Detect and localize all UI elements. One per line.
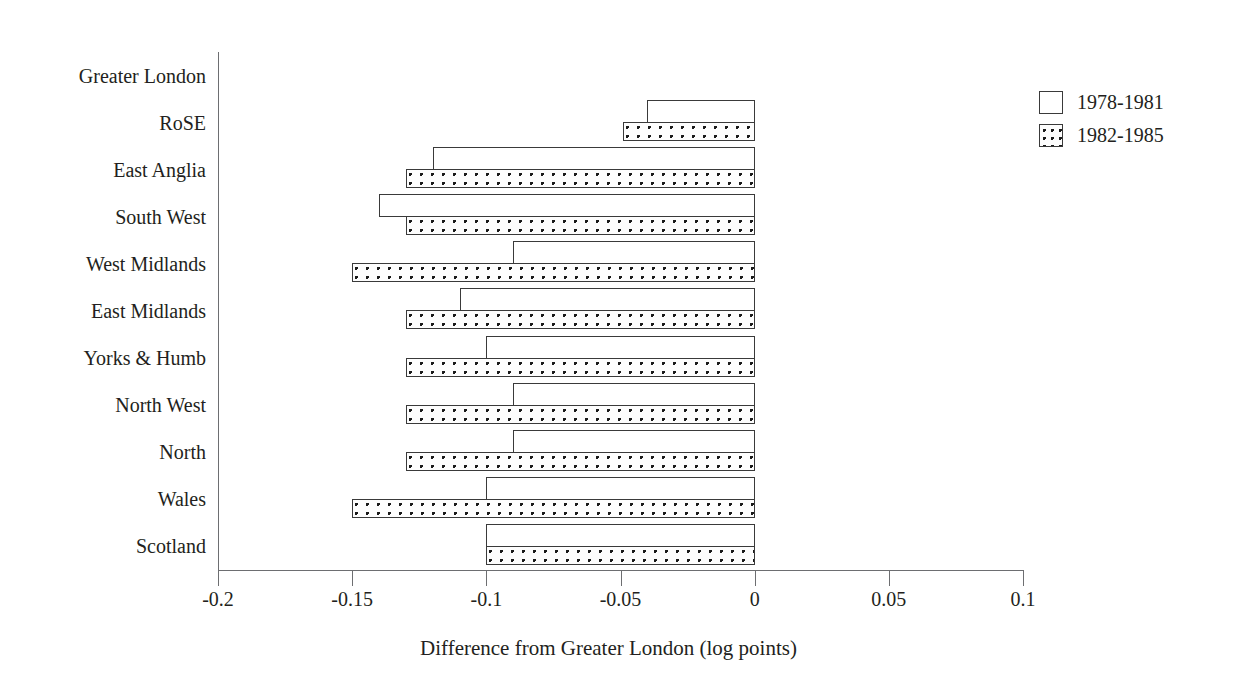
bar-row	[218, 476, 1023, 523]
x-axis-tick	[486, 571, 487, 586]
y-axis-tick-label: Yorks & Humb	[0, 345, 206, 371]
bar-period-2	[623, 122, 754, 141]
bar-period-1	[486, 336, 754, 359]
bar-period-2	[406, 169, 755, 188]
bar-period-2	[352, 499, 755, 518]
bar-period-1	[379, 194, 755, 217]
bar-period-1	[460, 288, 755, 311]
x-axis-tick	[1023, 571, 1024, 586]
bar-row	[218, 240, 1023, 287]
bar-period-1	[513, 383, 755, 406]
bar-period-1	[486, 477, 754, 500]
y-axis-tick-label: North	[0, 439, 206, 465]
plot-area: -0.2-0.15-0.1-0.0500.050.1	[218, 52, 1023, 570]
x-axis-tick-label: -0.1	[470, 588, 502, 611]
y-axis-tick-label: West Midlands	[0, 251, 206, 277]
bar-period-1	[513, 430, 755, 453]
bar-row	[218, 287, 1023, 334]
chart-legend: 1978-19811982-1985	[1039, 86, 1239, 152]
bar-period-1	[486, 524, 754, 547]
bar-row	[218, 335, 1023, 382]
x-axis-tick-label: 0.05	[871, 588, 906, 611]
y-axis-tick-label: East Anglia	[0, 157, 206, 183]
chart-figure: Greater LondonRoSEEast AngliaSouth WestW…	[0, 0, 1247, 682]
legend-swatch-empty-icon	[1039, 91, 1063, 114]
y-axis-tick-label: Greater London	[0, 63, 206, 89]
x-axis-tick	[352, 571, 353, 586]
bar-period-2	[406, 452, 755, 471]
legend-item-label: 1982-1985	[1077, 124, 1164, 147]
bar-row	[218, 193, 1023, 240]
x-axis-tick-label: -0.15	[331, 588, 373, 611]
y-axis-tick-label: North West	[0, 392, 206, 418]
bar-row	[218, 429, 1023, 476]
bar-period-2	[406, 310, 755, 329]
bar-period-2	[406, 358, 755, 377]
x-axis-tick	[889, 571, 890, 586]
bar-period-1	[647, 100, 754, 123]
y-axis-tick-label: Wales	[0, 486, 206, 512]
x-axis-tick-label: -0.05	[600, 588, 642, 611]
y-axis-tick-label: South West	[0, 204, 206, 230]
x-axis-tick-label: 0.1	[1011, 588, 1036, 611]
bar-period-2	[406, 405, 755, 424]
legend-item: 1978-1981	[1039, 86, 1239, 119]
x-axis-tick	[755, 571, 756, 586]
bar-row	[218, 146, 1023, 193]
x-axis-tick-label: 0	[750, 588, 760, 611]
y-axis-tick-labels: Greater LondonRoSEEast AngliaSouth WestW…	[0, 52, 206, 570]
bar-row	[218, 99, 1023, 146]
bar-period-1	[433, 147, 755, 170]
x-axis-tick	[218, 571, 219, 586]
y-axis-tick-label: RoSE	[0, 110, 206, 136]
legend-item-label: 1978-1981	[1077, 91, 1164, 114]
x-axis-tick-label: -0.2	[202, 588, 234, 611]
bar-period-2	[352, 263, 755, 282]
y-axis-tick-label: East Midlands	[0, 298, 206, 324]
legend-item: 1982-1985	[1039, 119, 1239, 152]
legend-swatch-dotted-icon	[1039, 124, 1063, 147]
bar-row	[218, 382, 1023, 429]
bar-row	[218, 523, 1023, 570]
x-axis-tick	[621, 571, 622, 586]
bar-period-1	[513, 241, 755, 264]
y-axis-tick-label: Scotland	[0, 533, 206, 559]
bar-period-2	[406, 216, 755, 235]
x-axis-title-text: Difference from Greater London (log poin…	[420, 636, 797, 661]
bar-period-2	[486, 546, 754, 565]
bar-row	[218, 52, 1023, 99]
x-axis-title: Difference from Greater London (log poin…	[0, 636, 1247, 661]
